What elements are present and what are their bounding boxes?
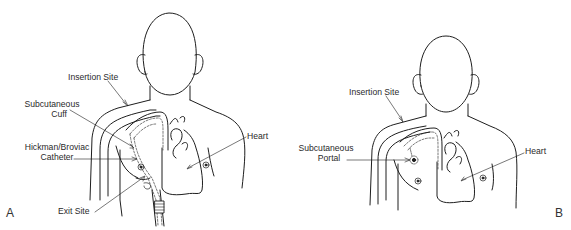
ear-right-a: [193, 54, 203, 74]
label-catheter-a: Hickman/Broviac Catheter: [22, 142, 92, 162]
label-subcutaneous-cuff-line2: Cuff: [22, 109, 82, 119]
label-insertion-site-a: Insertion Site: [68, 72, 118, 82]
label-catheter-line2: Catheter: [22, 152, 92, 162]
label-exit-site-a: Exit Site: [58, 206, 90, 216]
head-outline-b: [420, 36, 472, 112]
label-catheter-line1: Hickman/Broviac: [22, 142, 92, 152]
ear-left-a: [137, 54, 147, 74]
label-subcutaneous-cuff-line1: Subcutaneous: [22, 99, 82, 109]
label-subcutaneous-cuff-a: Subcutaneous Cuff: [22, 99, 82, 119]
panel-letter-a: A: [6, 206, 14, 220]
ear-left-b: [413, 74, 423, 94]
label-heart-a: Heart: [247, 131, 268, 141]
label-portal-line2: Portal: [296, 153, 356, 163]
panel-letter-b: B: [555, 206, 563, 220]
label-subcutaneous-portal-b: Subcutaneous Portal: [296, 143, 356, 163]
portal-tunnel-b: [400, 128, 442, 170]
panel-a-body: [90, 13, 245, 226]
label-insertion-site-b: Insertion Site: [349, 87, 399, 97]
panel-b-body: [370, 36, 517, 210]
central-venous-access-figure: Insertion Site Subcutaneous Cuff Hickman…: [0, 0, 571, 230]
head-outline-a: [143, 13, 196, 95]
illustration: [0, 0, 571, 230]
ear-right-b: [469, 74, 479, 94]
label-heart-b: Heart: [525, 146, 546, 156]
label-portal-line1: Subcutaneous: [296, 143, 356, 153]
